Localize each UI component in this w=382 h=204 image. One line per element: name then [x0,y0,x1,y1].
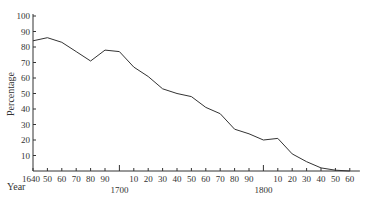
x-tick-label: 10 [273,174,283,184]
x-tick-label: 30 [302,174,312,184]
y-tick-label: 20 [21,135,31,145]
x-tick-label: 90 [101,174,111,184]
y-tick-label: 30 [21,120,31,130]
x-tick-label: 90 [245,174,255,184]
y-tick-label: 100 [17,11,31,21]
x-axis-label: Year [7,181,26,192]
x-tick-label: 70 [72,174,82,184]
y-tick-label: 70 [21,58,31,68]
century-label: 1800 [254,185,273,195]
y-tick-label: 90 [21,27,31,37]
x-tick-label: 60 [201,174,211,184]
x-tick-label: 80 [230,174,240,184]
x-tick-label: 50 [43,174,53,184]
x-tick-label: 40 [173,174,183,184]
x-tick-label: 50 [187,174,197,184]
line-chart: 102030405060708090100 164050607080901020… [0,0,382,204]
x-tick-label: 60 [57,174,67,184]
x-axis: 1640506070809010203040506070809010203040… [22,165,360,195]
x-tick-label: 50 [331,174,341,184]
plot-area [33,38,350,171]
y-tick-label: 40 [21,104,31,114]
y-tick-label: 80 [21,42,31,52]
x-tick-label: 80 [86,174,96,184]
data-line [33,38,350,171]
x-tick-label: 40 [317,174,327,184]
x-tick-label: 30 [158,174,168,184]
y-tick-label: 10 [21,151,31,161]
y-tick-label: 50 [21,89,31,99]
y-axis: 102030405060708090100 [17,11,37,171]
x-tick-label: 70 [216,174,226,184]
y-tick-label: 60 [21,73,31,83]
y-axis-label: Percentage [5,72,16,116]
x-tick-label: 20 [288,174,298,184]
century-label: 1700 [110,185,129,195]
x-tick-label: 20 [144,174,154,184]
x-tick-label: 60 [345,174,355,184]
x-tick-label: 10 [129,174,139,184]
